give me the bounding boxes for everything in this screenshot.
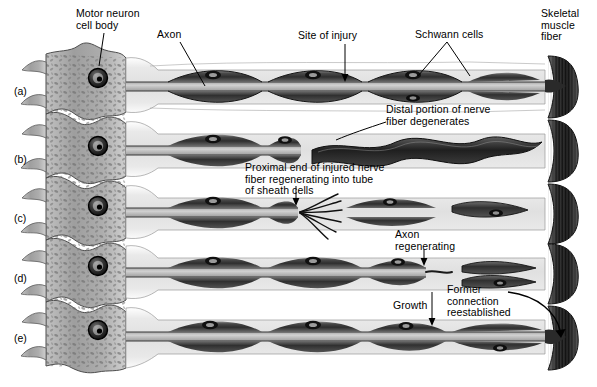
panel-a-illustration: [126, 56, 578, 118]
label-motor-neuron-cell-body: Motor neuron cell body: [76, 8, 140, 31]
label-site-of-injury: Site of injury: [298, 30, 357, 42]
nerve-regeneration-figure: Motor neuron cell body Axon Site of inju…: [0, 0, 597, 387]
label-growth: Growth: [393, 300, 427, 312]
panel-letter-e: (e): [14, 332, 27, 344]
panel-letter-d: (d): [14, 272, 27, 284]
label-axon: Axon: [157, 29, 181, 41]
label-skeletal-muscle-fiber: Skeletal muscle fiber: [541, 8, 579, 43]
label-distal-degenerates: Distal portion of nerve fiber degenerate…: [386, 104, 490, 127]
label-former-connection: Former connection reestablished: [447, 284, 511, 319]
panel-letter-c: (c): [14, 212, 26, 224]
motor-neuron-soma-column: [21, 43, 126, 373]
panel-letter-b: (b): [14, 153, 27, 165]
label-proximal-regenerating: Proximal end of injured nerve fiber rege…: [245, 162, 384, 197]
label-axon-regenerating: Axon regenerating: [395, 229, 455, 252]
panel-letter-a: (a): [14, 85, 27, 97]
label-schwann-cells: Schwann cells: [415, 29, 483, 41]
